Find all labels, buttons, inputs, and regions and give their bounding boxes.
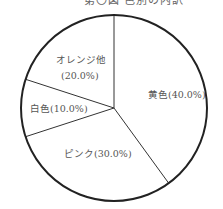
pie-chart: 黄色(40.0%) ピンク(30.0%) 白色(10.0%) オレンジ他 (20… — [0, 0, 223, 209]
slice-label-yellow: 黄色(40.0%) — [148, 89, 206, 100]
slice-label-white: 白色(10.0%) — [30, 103, 88, 114]
slice-divider — [114, 108, 169, 183]
slice-label-orange-pct: (20.0%) — [61, 70, 99, 81]
slice-label-orange-name: オレンジ他 — [56, 54, 106, 65]
slice-label-pink: ピンク(30.0%) — [64, 148, 132, 159]
